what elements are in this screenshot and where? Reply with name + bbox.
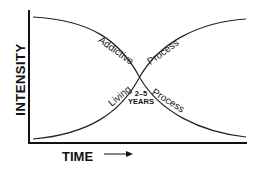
x-axis-label: TIME xyxy=(62,149,93,164)
intensity-time-diagram: INTENSITY TIME Addictive Process Living … xyxy=(0,0,264,169)
diagram-canvas xyxy=(0,0,264,169)
y-axis-label: INTENSITY xyxy=(13,40,28,120)
years-unit: YEARS xyxy=(128,98,154,106)
increasing-curve xyxy=(33,19,246,139)
arrow-right-icon xyxy=(126,151,133,157)
years-annotation: 2–5 YEARS xyxy=(128,90,154,106)
